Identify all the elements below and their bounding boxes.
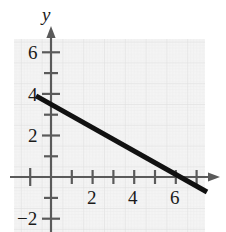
coordinate-plane <box>0 0 226 232</box>
chart-figure: y 6 4 2 −2 2 4 6 <box>0 0 226 232</box>
y-tick-label-4: 4 <box>28 85 38 104</box>
y-tick-label-2: 2 <box>28 126 38 145</box>
x-tick-label-4: 4 <box>128 188 138 207</box>
y-tick-label-6: 6 <box>28 43 38 62</box>
y-tick-label-neg2: −2 <box>17 209 37 228</box>
x-tick-label-6: 6 <box>170 188 180 207</box>
y-axis-label: y <box>42 5 50 24</box>
x-tick-label-2: 2 <box>87 188 97 207</box>
